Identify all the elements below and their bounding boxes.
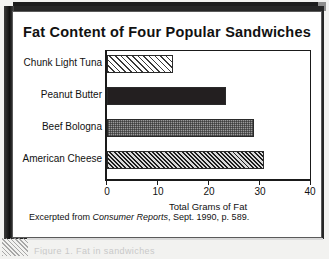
source-note: Excerpted from Consumer Reports, Sept. 1… <box>29 212 249 222</box>
scan-corner-hatch-artifact <box>2 238 28 256</box>
bar-beef-bologna <box>107 119 254 137</box>
x-axis-label: Total Grams of Fat <box>105 201 311 212</box>
x-tick-label-0: 0 <box>104 186 110 197</box>
category-axis-labels: Chunk Light Tuna Peanut Butter Beef Bolo… <box>13 50 105 181</box>
category-label-peanut-butter: Peanut Butter <box>41 89 102 101</box>
x-tick-0 <box>106 181 107 185</box>
x-tick-label-40: 40 <box>304 186 315 197</box>
source-suffix: , Sept. 1990, p. 589. <box>168 212 249 222</box>
x-tick-label-30: 30 <box>254 186 265 197</box>
category-label-american-cheese: American Cheese <box>23 153 102 165</box>
scan-bottom-edge-line <box>27 238 323 240</box>
bar-american-cheese <box>107 151 264 169</box>
x-tick-20 <box>208 181 209 185</box>
x-tick-30 <box>259 181 260 185</box>
bar-peanut-butter <box>107 87 226 105</box>
source-prefix: Excerpted from <box>29 212 90 222</box>
category-label-chunk-light-tuna: Chunk Light Tuna <box>24 57 102 69</box>
plot-frame <box>105 50 311 181</box>
chart-plot-area: Chunk Light Tuna Peanut Butter Beef Bolo… <box>13 50 323 200</box>
x-tick-10 <box>157 181 158 185</box>
chart-title: Fat Content of Four Popular Sandwiches <box>13 24 321 40</box>
category-label-beef-bologna: Beef Bologna <box>42 121 102 133</box>
x-tick-label-10: 10 <box>152 186 163 197</box>
bar-chunk-light-tuna <box>107 55 173 73</box>
x-tick-40 <box>310 181 311 185</box>
source-publication: Consumer Reports <box>93 212 169 222</box>
x-tick-label-20: 20 <box>203 186 214 197</box>
faded-caption-text: Figure 1. Fat in sandwiches <box>34 246 284 255</box>
figure-card: Fat Content of Four Popular Sandwiches C… <box>12 11 322 238</box>
scanned-page-background: Fat Content of Four Popular Sandwiches C… <box>0 0 329 259</box>
